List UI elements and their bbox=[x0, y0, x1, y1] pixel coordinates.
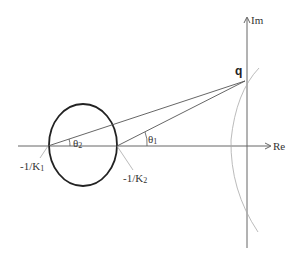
real-axis bbox=[18, 143, 271, 149]
line-k2-to-q bbox=[117, 81, 245, 146]
k2-tick bbox=[117, 146, 133, 170]
critical-disk bbox=[49, 104, 117, 186]
circle-criterion-diagram: Re Im q θ2 θ1 -1/K1 -1/K2 bbox=[0, 0, 300, 260]
real-axis-label: Re bbox=[273, 140, 285, 152]
point-q-label: q bbox=[235, 64, 242, 78]
theta1-arc bbox=[145, 132, 147, 146]
k1-tick bbox=[40, 146, 48, 158]
theta1-label: θ1 bbox=[148, 133, 157, 146]
imag-axis-label: Im bbox=[251, 14, 264, 26]
nyquist-curve bbox=[231, 68, 259, 232]
theta2-arc bbox=[69, 139, 70, 146]
k2-label: -1/K2 bbox=[123, 172, 147, 185]
theta2-label: θ2 bbox=[73, 137, 82, 150]
k1-label: -1/K1 bbox=[20, 160, 44, 173]
